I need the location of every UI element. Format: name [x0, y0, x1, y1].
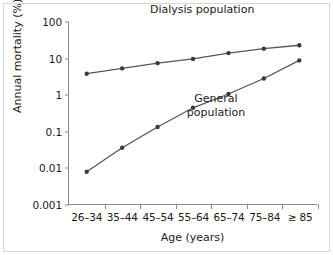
- data-point: [297, 43, 301, 47]
- x-tick-mark: [318, 204, 319, 209]
- annotation-general-line2: population: [183, 106, 249, 120]
- x-tick-label: 26–34: [71, 211, 102, 223]
- data-point: [226, 51, 230, 55]
- annotation-general-line1: General: [183, 92, 249, 106]
- x-tick-mark: [176, 204, 177, 209]
- y-tick-label: 0.001: [32, 199, 69, 211]
- x-axis-label: Age (years): [68, 231, 317, 244]
- data-point: [155, 125, 159, 129]
- data-point: [297, 58, 301, 62]
- y-tick-label: 0.01: [39, 162, 69, 174]
- x-tick-mark: [211, 204, 212, 209]
- data-point: [120, 146, 124, 150]
- y-tick-label: 1: [55, 89, 69, 101]
- y-tick-label: 100: [42, 16, 69, 28]
- data-point: [85, 170, 89, 174]
- y-tick-label: 0.1: [46, 126, 69, 138]
- x-tick-mark: [140, 204, 141, 209]
- annotation-dialysis-population: Dialysis population: [150, 3, 254, 17]
- x-tick-mark: [247, 204, 248, 209]
- x-tick-label: 65–74: [214, 211, 245, 223]
- data-point: [262, 46, 266, 50]
- data-point: [262, 76, 266, 80]
- data-point: [85, 72, 89, 76]
- x-tick-label: ≥ 85: [288, 211, 313, 223]
- data-point: [120, 66, 124, 70]
- data-point: [155, 61, 159, 65]
- x-tick-label: 45–54: [142, 211, 173, 223]
- x-tick-label: 75–84: [249, 211, 280, 223]
- annotation-general-population: General population: [183, 92, 249, 120]
- x-tick-label: 55–64: [178, 211, 209, 223]
- data-point: [191, 57, 195, 61]
- y-axis-label: Annual mortality (%): [11, 0, 24, 113]
- x-tick-label: 35–44: [107, 211, 138, 223]
- annotation-dialysis-text: Dialysis population: [150, 3, 254, 16]
- chart-figure: Annual mortality (%) 1001010.10.010.0012…: [0, 0, 333, 255]
- y-tick-label: 10: [49, 53, 69, 65]
- x-tick-mark: [105, 204, 106, 209]
- x-tick-mark: [282, 204, 283, 209]
